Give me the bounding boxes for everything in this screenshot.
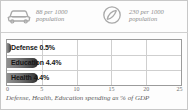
stats-header: 88 per 1000 population 230 per 1000 popu… <box>1 1 188 33</box>
bar-label-defense: Defense 0.5% <box>11 43 55 53</box>
car-icon <box>6 4 32 26</box>
stat-telephones-text: 230 per 1000 population <box>129 8 164 23</box>
x-tick-label: 5 <box>40 86 43 92</box>
stat-cars-text: 88 per 1000 population <box>36 8 67 23</box>
bar-row: Education 4.4% <box>7 55 181 70</box>
bar-row: Defense 0.5% <box>7 40 181 55</box>
x-tick-label: 15 <box>108 86 114 92</box>
stat-telephones: 230 per 1000 population <box>99 4 164 26</box>
stat-cars: 88 per 1000 population <box>6 4 67 26</box>
infographic-panel: 88 per 1000 population 230 per 1000 popu… <box>0 0 188 110</box>
bar-label-education: Education 4.4% <box>11 58 61 68</box>
x-tick-label: 0 <box>6 86 9 92</box>
telephone-icon <box>99 4 125 26</box>
bar-row: Health 4.4% <box>7 70 181 85</box>
chart-caption: Defense, Health, Education spending as %… <box>6 94 186 102</box>
x-tick-label: 20 <box>143 86 149 92</box>
bar-chart-plot: Defense 0.5%Education 4.4%Health 4.4% <box>6 39 182 86</box>
x-tick-label: 25 <box>177 86 183 92</box>
x-axis: 0510152025 <box>6 86 182 94</box>
x-tick-label: 10 <box>74 86 80 92</box>
bar-label-health: Health 4.4% <box>11 73 49 83</box>
